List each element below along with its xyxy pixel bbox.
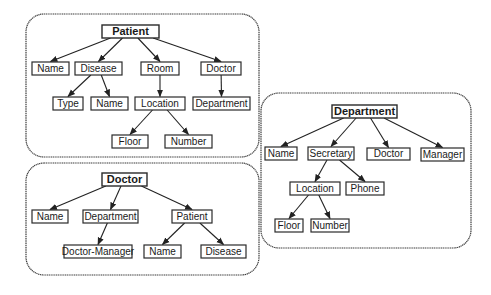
node-label: Phone — [351, 183, 380, 194]
node-patient-room: Room — [141, 62, 179, 75]
node-label: Location — [296, 183, 334, 194]
node-department-secretary: Secretary — [308, 147, 354, 160]
node-label: Patient — [112, 25, 149, 37]
node-label: Doctor — [206, 63, 236, 74]
root-node-department-department: Department — [332, 105, 397, 118]
node-label: Location — [141, 98, 179, 109]
node-doctor-name: Name — [144, 245, 181, 258]
node-department-phone: Phone — [346, 182, 384, 195]
node-patient-department: Department — [193, 97, 250, 110]
node-label: Doctor — [107, 173, 143, 185]
node-patient-disease: Disease — [75, 62, 122, 75]
node-patient-name: Name — [32, 62, 69, 75]
node-label: Patient — [176, 211, 207, 222]
node-label: Doctor-Manager — [62, 246, 135, 257]
node-label: Floor — [278, 220, 301, 231]
node-label: Department — [195, 98, 247, 109]
node-patient-doctor: Doctor — [201, 62, 241, 75]
node-doctor-department: Department — [83, 210, 138, 223]
node-label: Number — [312, 220, 348, 231]
node-doctor-patient: Patient — [172, 210, 212, 223]
node-patient-location: Location — [135, 97, 185, 110]
node-label: Floor — [119, 136, 142, 147]
node-label: Name — [37, 211, 64, 222]
node-label: Doctor — [374, 148, 404, 159]
node-department-name: Name — [265, 147, 297, 160]
node-department-floor: Floor — [275, 219, 303, 232]
node-label: Type — [57, 98, 79, 109]
node-label: Department — [334, 105, 395, 117]
node-department-doctor: Doctor — [367, 148, 410, 160]
node-doctor-doctor-manager: Doctor-Manager — [62, 245, 135, 258]
node-department-number: Number — [311, 219, 349, 232]
node-label: Name — [96, 98, 123, 109]
node-label: Name — [268, 148, 295, 159]
node-label: Name — [149, 246, 176, 257]
node-label: Disease — [205, 246, 242, 257]
diagram-canvas: PatientNameDiseaseRoomDoctorTypeNameLoca… — [0, 0, 491, 295]
node-patient-number: Number — [165, 135, 212, 148]
node-label: Manager — [423, 149, 463, 160]
node-label: Room — [147, 63, 174, 74]
node-doctor-disease: Disease — [201, 245, 246, 258]
node-label: Secretary — [310, 148, 353, 159]
node-label: Name — [37, 63, 64, 74]
node-label: Department — [84, 211, 136, 222]
node-patient-floor: Floor — [112, 135, 148, 148]
node-department-location: Location — [290, 182, 340, 195]
node-label: Disease — [80, 63, 117, 74]
node-doctor-name: Name — [32, 210, 68, 223]
node-patient-type: Type — [53, 97, 83, 110]
node-patient-name: Name — [91, 97, 128, 110]
node-label: Number — [171, 136, 207, 147]
node-department-manager: Manager — [421, 148, 464, 161]
root-node-patient-patient: Patient — [102, 25, 159, 38]
root-node-doctor-doctor: Doctor — [102, 173, 147, 186]
